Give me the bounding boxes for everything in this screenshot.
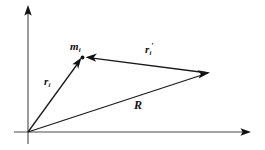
- vector-diagram-figure: mi ri ri′ R: [0, 0, 265, 150]
- label-relative-vector: ri′: [145, 44, 154, 55]
- label-center-of-mass-vector: R: [134, 99, 142, 111]
- vector-r-i-arrowhead-icon: [72, 58, 81, 69]
- label-mass-point: mi: [70, 41, 80, 52]
- diagram-canvas: [0, 0, 265, 150]
- vector-R: [28, 70, 210, 132]
- label-mass-point-base: m: [70, 40, 79, 52]
- vector-R-shaft: [28, 75, 204, 133]
- vector-r-i: [28, 58, 82, 133]
- mass-point-marker: [81, 56, 85, 60]
- label-center-of-mass-vector-base: R: [134, 98, 142, 112]
- label-relative-vector-prime: ′: [151, 41, 153, 51]
- vector-r-i-prime: [86, 54, 209, 73]
- label-position-vector: ri: [44, 76, 50, 87]
- vector-r-i-prime-arrowhead-icon: [86, 54, 98, 62]
- label-mass-point-subscript: i: [79, 46, 81, 53]
- vector-r-i-prime-shaft: [93, 58, 209, 73]
- vector-r-i-shaft: [28, 63, 79, 133]
- axes-group: [14, 5, 251, 144]
